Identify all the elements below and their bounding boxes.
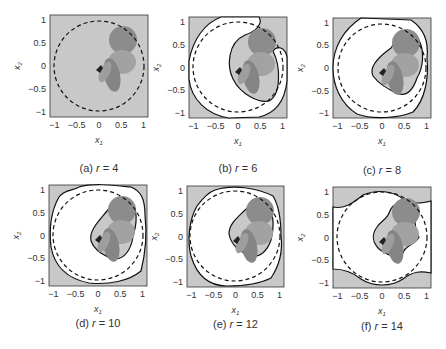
y-tick-label: 0 (324, 63, 329, 73)
y-tick-label: 0 (40, 231, 45, 241)
y-tick-label: 1 (324, 18, 329, 28)
x-tick-label: 0.5 (114, 289, 127, 299)
x-tick-label: −0.5 (68, 120, 86, 130)
panel-caption: (a) r = 4 (80, 162, 119, 174)
y-tick-label: 1 (180, 17, 185, 27)
x-axis-label: x1 (377, 136, 386, 147)
x-tick-label: −0.5 (207, 121, 225, 131)
x-axis-label: x1 (231, 305, 240, 316)
y-tick-label: −0.5 (27, 253, 45, 263)
y-tick-label: 0.5 (316, 210, 329, 220)
panel-d (49, 185, 147, 286)
x-axis-label: x1 (233, 136, 242, 147)
y-tick-label: −1 (173, 277, 183, 287)
x-tick-label: 0 (379, 291, 384, 301)
panel-caption: (b) r = 6 (219, 162, 258, 174)
y-tick-label: 1 (324, 187, 329, 197)
y-tick-label: 1 (41, 15, 46, 25)
x-tick-label: 1 (280, 121, 285, 131)
x-tick-label: 0 (235, 121, 240, 131)
x-tick-label: −0.5 (351, 291, 369, 301)
x-tick-label: −0.5 (351, 121, 369, 131)
y-tick-label: 0 (324, 233, 329, 243)
y-tick-label: −1 (175, 108, 185, 118)
y-tick-label: 0 (178, 232, 183, 242)
y-tick-label: 1 (40, 185, 45, 195)
y-axis-label: x2 (295, 63, 306, 73)
y-tick-label: −0.5 (311, 86, 329, 96)
panel-caption: (e) r = 12 (213, 318, 258, 330)
y-tick-label: 0.5 (32, 208, 45, 218)
x-axis-label: x1 (377, 306, 386, 317)
x-axis-label: x1 (94, 135, 103, 146)
panel-caption: (f) r = 14 (361, 320, 403, 332)
y-axis-label: x2 (295, 233, 306, 243)
x-tick-label: −1 (188, 121, 198, 131)
panel-caption: (d) r = 10 (76, 317, 121, 329)
y-tick-label: 0.5 (33, 38, 46, 48)
y-tick-label: 1 (178, 186, 183, 196)
x-tick-label: 0.5 (251, 290, 264, 300)
y-tick-label: −0.5 (165, 254, 183, 264)
x-tick-label: 0 (96, 120, 101, 130)
x-tick-label: 1 (424, 121, 429, 131)
panel-a (50, 15, 148, 117)
x-tick-label: 0.5 (254, 121, 267, 131)
figure: −1−0.500.5110.50−0.5−1x1x2−1−0.500.5110.… (0, 0, 446, 349)
y-tick-label: −0.5 (28, 84, 46, 94)
y-tick-label: 0.5 (170, 209, 183, 219)
y-tick-label: 0 (41, 61, 46, 71)
panel-b (189, 17, 287, 118)
y-tick-label: −1 (35, 276, 45, 286)
y-axis-label: x2 (12, 61, 23, 71)
x-tick-label: −1 (48, 289, 58, 299)
x-tick-label: −1 (186, 290, 196, 300)
x-tick-label: 0 (379, 121, 384, 131)
x-tick-label: −0.5 (205, 290, 223, 300)
panel-caption: (c) r = 8 (363, 164, 401, 176)
y-axis-label: x2 (149, 232, 160, 242)
x-axis-label: x1 (93, 304, 102, 315)
x-tick-label: −1 (332, 121, 342, 131)
x-tick-label: −0.5 (67, 289, 85, 299)
x-tick-label: 1 (277, 290, 282, 300)
x-tick-label: 1 (140, 289, 145, 299)
x-tick-label: 0.5 (115, 120, 128, 130)
x-tick-label: 0 (95, 289, 100, 299)
x-tick-label: −1 (49, 120, 59, 130)
x-tick-label: 1 (141, 120, 146, 130)
panel-c (333, 18, 431, 118)
y-axis-label: x2 (11, 231, 22, 241)
x-tick-label: 0 (233, 290, 238, 300)
y-tick-label: 0.5 (316, 40, 329, 50)
y-tick-label: −0.5 (167, 85, 185, 95)
x-tick-label: −1 (332, 291, 342, 301)
panel-e (187, 186, 284, 287)
y-tick-label: 0.5 (172, 40, 185, 50)
y-tick-label: −1 (319, 108, 329, 118)
y-tick-label: 0 (180, 63, 185, 73)
y-tick-label: −1 (36, 107, 46, 117)
x-tick-label: 0.5 (398, 291, 411, 301)
y-tick-label: −0.5 (311, 255, 329, 265)
x-tick-label: 1 (424, 291, 429, 301)
y-axis-label: x2 (151, 63, 162, 73)
y-tick-label: −1 (319, 278, 329, 288)
panel-f (333, 187, 431, 288)
x-tick-label: 0.5 (398, 121, 411, 131)
